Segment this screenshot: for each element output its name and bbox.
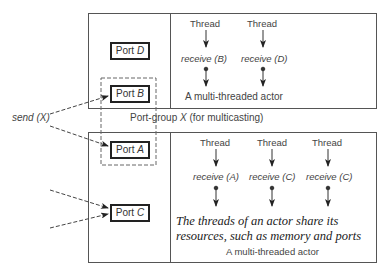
arrow-to-c-2 — [50, 214, 108, 228]
arrow-to-c-1 — [50, 190, 108, 208]
send-arrow-to-b — [50, 96, 108, 114]
diagram-connectors — [0, 0, 383, 266]
send-arrow-to-a — [50, 126, 108, 146]
port-group-boundary — [101, 78, 156, 165]
